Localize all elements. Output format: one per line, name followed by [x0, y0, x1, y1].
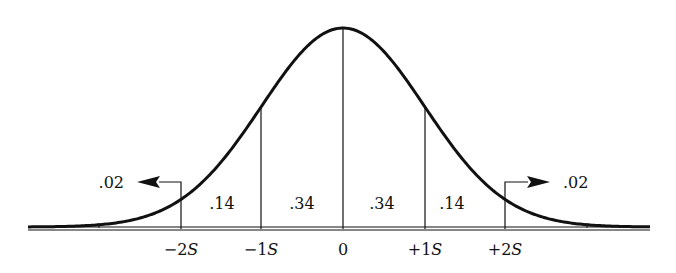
axis-label-zero: 0 [338, 240, 348, 259]
axis-label-minus-2s: −2S [164, 240, 199, 259]
label-region-0-p1: .34 [369, 194, 394, 213]
axis-label-minus-1s: −1S [244, 240, 279, 259]
bell-curve [28, 28, 650, 227]
diagram-canvas: .02 .14 .34 .34 .14 .02 −2S −1S 0 +1S +2… [0, 0, 676, 273]
normal-distribution-diagram: .02 .14 .34 .34 .14 .02 −2S −1S 0 +1S +2… [0, 0, 676, 273]
arrow-left-icon [137, 176, 160, 188]
label-tail-left: .02 [99, 173, 124, 192]
label-region-m1-0: .34 [289, 194, 314, 213]
arrow-right-icon [527, 176, 550, 188]
axis-label-plus-1s: +1S [408, 240, 443, 259]
label-tail-right: .02 [563, 173, 588, 192]
axis-label-plus-2s: +2S [488, 240, 523, 259]
label-region-m2-m1: .14 [209, 194, 234, 213]
label-region-p1-p2: .14 [439, 194, 464, 213]
